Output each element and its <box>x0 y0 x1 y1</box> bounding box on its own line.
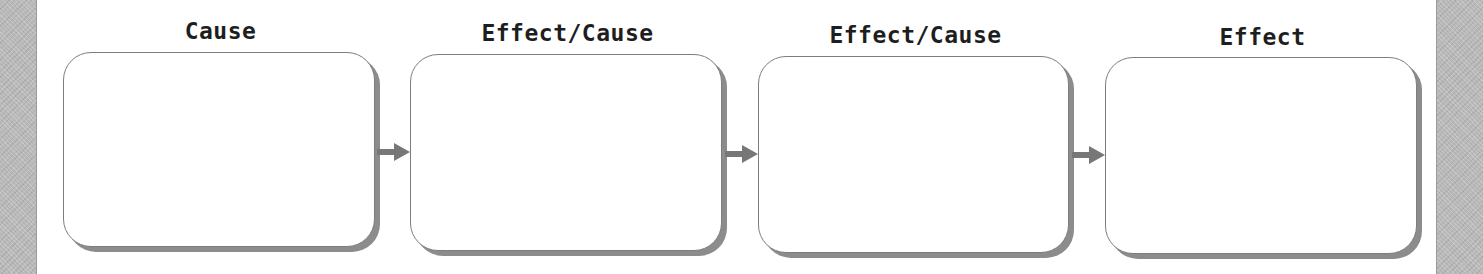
node-label-cause: Cause <box>63 18 378 44</box>
node-label-effect-cause-1: Effect/Cause <box>410 20 725 46</box>
effect-cause-box-2[interactable] <box>758 56 1069 253</box>
right-decorative-strip <box>1436 0 1483 274</box>
arrow-right-icon <box>725 144 759 164</box>
node-label-effect: Effect <box>1105 24 1420 50</box>
effect-box[interactable] <box>1105 57 1417 254</box>
effect-cause-box-1[interactable] <box>410 54 722 251</box>
node-label-effect-cause-2: Effect/Cause <box>758 22 1073 48</box>
arrow-right-icon <box>377 142 411 162</box>
left-decorative-strip <box>0 0 37 274</box>
cause-box[interactable] <box>63 52 375 247</box>
arrow-right-icon <box>1072 145 1106 165</box>
